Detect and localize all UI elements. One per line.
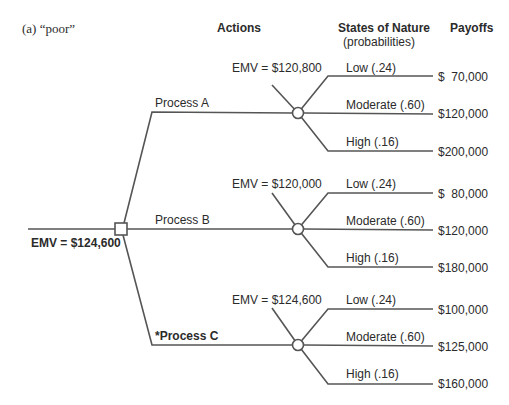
action-label-a: Process A [155,96,209,110]
chance-node-c [293,340,304,351]
payoff-c-high: $160,000 [438,377,488,391]
emv-b: EMV = $120,000 [232,177,322,191]
state-a-low: Low (.24) [346,61,396,75]
payoff-a-high: $200,000 [438,145,488,159]
action-label-c: *Process C [155,329,218,343]
chance-node-a [293,108,304,119]
payoff-c-moderate: $125,000 [438,340,488,354]
payoff-c-low: $100,000 [438,303,488,317]
payoff-a-moderate: $120,000 [438,107,488,121]
payoff-b-low: $ 80,000 [438,187,488,201]
emv-a: EMV = $120,800 [232,61,322,75]
state-b-low: Low (.24) [346,177,396,191]
root-emv: EMV = $124,600 [31,236,121,250]
payoff-a-low: $ 70,000 [438,70,488,84]
emv-c: EMV = $124,600 [232,293,322,307]
state-b-moderate: Moderate (.60) [346,214,425,228]
decision-node [115,223,127,235]
header-states-sub: (probabilities) [343,35,415,49]
state-c-moderate: Moderate (.60) [346,330,425,344]
figure-label: (a) “poor” [22,21,75,37]
payoff-b-high: $180,000 [438,261,488,275]
header-states: States of Nature [338,21,430,35]
state-b-high: High (.16) [346,251,399,265]
payoff-b-moderate: $120,000 [438,224,488,238]
state-c-low: Low (.24) [346,293,396,307]
chance-node-b [293,224,304,235]
state-c-high: High (.16) [346,367,399,381]
state-a-high: High (.16) [346,135,399,149]
header-payoffs: Payoffs [450,21,493,35]
header-actions: Actions [217,21,261,35]
state-a-moderate: Moderate (.60) [346,98,425,112]
action-label-b: Process B [155,213,210,227]
